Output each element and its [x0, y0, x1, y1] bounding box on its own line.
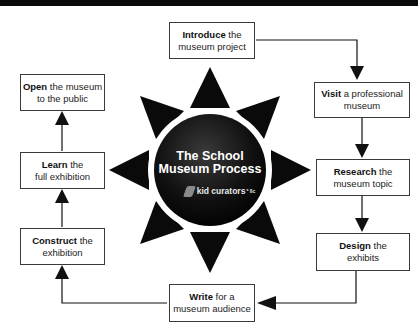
step-open: Open the museum to the public [20, 74, 105, 111]
step-label-bold: Open [23, 81, 47, 92]
step-label-rest: the [376, 166, 392, 177]
step-label-rest: the [77, 235, 93, 246]
step-label-rest: the museum [47, 81, 102, 92]
step-learn: Learn the full exhibition [20, 152, 105, 189]
step-label-line2: museum project [178, 41, 246, 52]
kid-curators-logo: kid curators * llc [180, 184, 260, 198]
step-label-rest: a professional [341, 88, 403, 99]
step-label-line2: full exhibition [35, 171, 90, 182]
step-label-bold: Learn [42, 159, 68, 170]
step-label-line2: museum audience [173, 303, 251, 314]
step-label-bold: Introduce [182, 29, 225, 40]
step-label-bold: Construct [32, 235, 77, 246]
step-introduce: Introduce the museum project [169, 22, 255, 59]
step-label-rest: the [68, 159, 84, 170]
step-design: Design the exhibits [316, 233, 410, 271]
step-write: Write for a museum audience [169, 284, 255, 322]
step-label-bold: Visit [321, 88, 341, 99]
logo-suffix: * llc [246, 188, 255, 194]
step-label-line2: museum topic [333, 178, 392, 189]
logo-figure-icon [183, 186, 196, 197]
step-research: Research the museum topic [316, 159, 410, 196]
step-label-rest: the [226, 29, 242, 40]
center-title-line2: Museum Process [150, 163, 270, 176]
step-label-line2: exhibition [42, 247, 82, 258]
step-label-line2: to the public [37, 93, 88, 104]
step-label-bold: Research [334, 166, 377, 177]
step-label-line2: exhibits [347, 252, 379, 263]
step-label-bold: Write [189, 291, 213, 302]
step-visit: Visit a professional museum [314, 82, 410, 118]
step-label-line2: museum [344, 100, 380, 111]
step-label-bold: Design [339, 240, 371, 251]
step-label-rest: the [371, 240, 387, 251]
center-title: The School Museum Process [150, 150, 270, 176]
step-construct: Construct the exhibition [20, 228, 105, 265]
step-label-rest: for a [213, 291, 235, 302]
logo-text: kid curators [197, 186, 246, 196]
